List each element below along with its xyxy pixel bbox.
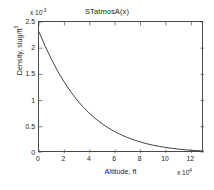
y-tick-label: 2 [31,44,35,51]
x-tick-label: 2 [61,155,65,162]
x-tick-label: 6 [112,155,116,162]
x-tick-label: 0 [36,155,40,162]
y-axis-exponent-label: x 10-3 [30,9,46,16]
y-axis-title-superscript: 3 [13,26,19,29]
y-tick-label: 1 [31,96,35,103]
x-tick-label: 4 [87,155,91,162]
density-curve [39,32,204,151]
y-axis-title-text: Density, slug/ft [15,29,24,76]
tick-marks [39,22,204,153]
plot-area [38,21,203,152]
x-axis-title: Altitude, ft [38,167,203,176]
y-axis-title: Density, slug/ft3 [15,0,24,126]
y-tick-label: 0.5 [26,122,35,129]
figure-canvas: STatmosA(x) x 10-3 x 104 00.511.522.5 02… [0,0,214,190]
x-tick-label: 10 [161,155,169,162]
y-tick-label: 0 [31,149,35,156]
x-tick-label: 8 [138,155,142,162]
y-exponent-prefix: x 10 [30,9,42,16]
y-exponent-value: -3 [42,8,46,13]
plot-svg [39,22,204,153]
y-tick-label: 1.5 [26,70,35,77]
x-tick-label: 12 [187,155,195,162]
y-tick-label: 2.5 [26,18,35,25]
